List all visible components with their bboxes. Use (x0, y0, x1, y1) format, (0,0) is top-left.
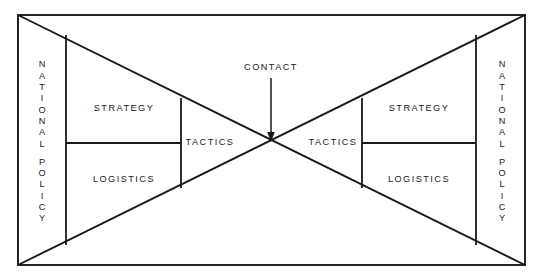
right-logistics-label: LOGISTICS (388, 174, 450, 184)
vertical-letter: I (35, 191, 49, 202)
vertical-letter: A (495, 127, 509, 138)
vertical-letter: O (495, 105, 509, 116)
vertical-letter: O (495, 168, 509, 179)
right-national-policy-label: NATIONALPOLICY (482, 52, 522, 232)
vertical-letter: I (35, 93, 49, 104)
vertical-letter: N (35, 116, 49, 127)
vertical-letter: L (35, 179, 49, 190)
vertical-letter: T (495, 82, 509, 93)
vertical-letter: I (495, 191, 509, 202)
vertical-letter: C (495, 202, 509, 213)
vertical-letter: A (495, 71, 509, 82)
vertical-letter: P (35, 157, 49, 168)
left-national-policy-label: NATIONALPOLICY (22, 52, 62, 232)
vertical-letter: L (495, 139, 509, 150)
left-logistics-label: LOGISTICS (93, 174, 155, 184)
contact-label: CONTACT (244, 62, 298, 72)
vertical-letter: O (35, 168, 49, 179)
diagram-canvas: CONTACT STRATEGY LOGISTICS TACTICS STRAT… (0, 0, 542, 280)
vertical-letter: P (495, 157, 509, 168)
vertical-letter: Y (495, 213, 509, 224)
vertical-letter: N (495, 116, 509, 127)
vertical-letter: O (35, 105, 49, 116)
vertical-letter: C (35, 202, 49, 213)
levels-of-war-diagram: CONTACT STRATEGY LOGISTICS TACTICS STRAT… (0, 0, 542, 280)
left-strategy-label: STRATEGY (94, 103, 154, 113)
vertical-letter: T (35, 82, 49, 93)
vertical-letter: A (35, 71, 49, 82)
right-strategy-label: STRATEGY (389, 103, 449, 113)
left-tactics-label: TACTICS (186, 137, 235, 147)
vertical-letter: N (35, 59, 49, 70)
vertical-letter: L (495, 179, 509, 190)
vertical-letter: Y (35, 213, 49, 224)
vertical-letter: N (495, 59, 509, 70)
vertical-letter: L (35, 139, 49, 150)
right-tactics-label: TACTICS (309, 137, 358, 147)
vertical-letter: A (35, 127, 49, 138)
vertical-letter: I (495, 93, 509, 104)
